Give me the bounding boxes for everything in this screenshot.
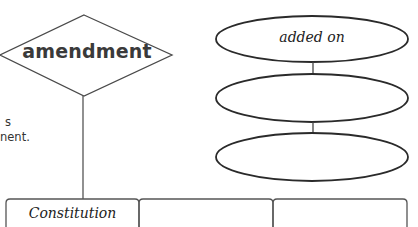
attribute-ellipse-3: [216, 133, 408, 181]
attribute-ellipse-2: [216, 74, 408, 122]
diagram-canvas: amendment added on s nent. Constitution: [0, 0, 418, 227]
box-3-outline: [273, 199, 407, 227]
side-text-line-2: nent.: [0, 130, 30, 144]
box-label-1: Constitution: [6, 205, 139, 221]
relationship-label: amendment: [22, 40, 152, 62]
side-text-line-1: s: [5, 115, 11, 129]
attribute-label-1: added on: [216, 29, 408, 45]
box-2-outline: [139, 199, 273, 227]
